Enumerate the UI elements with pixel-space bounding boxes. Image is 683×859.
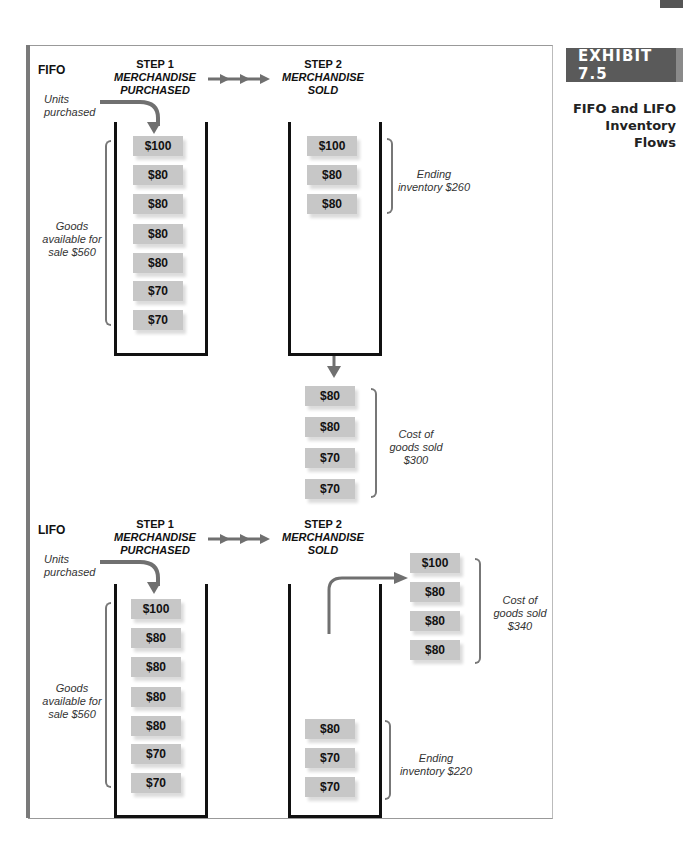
unit-box: $100 [307,136,357,156]
lifo-cogs-brace [475,558,481,664]
unit-box: $70 [133,281,183,301]
unit-box: $70 [131,744,181,764]
fifo-step1-label: STEP 1 [136,58,174,70]
fifo-units-purchased-label: Units purchased [44,93,95,119]
fifo-goods-available-brace [105,140,111,326]
unit-box: $100 [133,136,183,156]
exhibit-badge-edge [676,48,683,82]
fifo-ending-inventory-label: Ending inventory $260 [396,168,472,194]
unit-box: $80 [410,640,460,660]
fifo-flow-arrow-icon [208,74,272,84]
frame-accent-bar [26,45,30,818]
unit-box: $80 [131,716,181,736]
fifo-step2-heading: STEP 2 MERCHANDISE SOLD [268,58,378,97]
lifo-units-purchased-label: Units purchased [44,553,95,579]
lifo-flow-arrow-icon [208,534,272,544]
fifo-step2-label: STEP 2 [304,58,342,70]
unit-box: $80 [131,687,181,707]
unit-box: $80 [305,417,355,437]
unit-box: $80 [133,253,183,273]
fifo-step1-line1: MERCHANDISE [100,71,210,84]
lifo-ending-inventory-brace [385,720,391,800]
unit-box: $80 [307,194,357,214]
page-number-tab [660,0,683,8]
lifo-step1-label: STEP 1 [136,518,174,530]
fifo-method-label: FIFO [38,63,65,77]
fifo-goods-available-label: Goods available for sale $560 [40,220,104,259]
fifo-step2-line2: SOLD [268,84,378,97]
lifo-step1-heading: STEP 1 MERCHANDISE PURCHASED [100,518,210,557]
fifo-step1-heading: STEP 1 MERCHANDISE PURCHASED [100,58,210,97]
lifo-cogs-label: Cost of goods sold $340 [484,594,556,633]
unit-box: $70 [305,777,355,797]
lifo-sold-arrow-icon [326,572,410,636]
exhibit-title-line2: Inventory Flows [560,117,676,151]
unit-box: $80 [410,611,460,631]
unit-box: $70 [305,479,355,499]
fifo-ending-inventory-brace [387,138,393,214]
lifo-step1-line1: MERCHANDISE [100,531,210,544]
unit-box: $80 [410,582,460,602]
lifo-step2-label: STEP 2 [304,518,342,530]
fifo-sold-bin [288,122,382,356]
exhibit-badge: EXHIBIT 7.5 [566,48,683,82]
unit-box: $80 [133,194,183,214]
lifo-step2-line2: SOLD [268,544,378,557]
unit-box: $70 [305,748,355,768]
unit-box: $80 [305,719,355,739]
lifo-ending-inventory-label: Ending inventory $220 [394,752,478,778]
lifo-goods-available-label: Goods available for sale $560 [40,682,104,721]
fifo-sold-arrow-icon [327,356,341,378]
exhibit-title: FIFO and LIFO Inventory Flows [560,100,676,151]
lifo-goods-available-brace [105,602,111,788]
fifo-cogs-brace [371,388,377,498]
unit-box: $100 [410,553,460,573]
unit-box: $70 [131,773,181,793]
exhibit-title-line1: FIFO and LIFO [560,100,676,117]
lifo-step2-line1: MERCHANDISE [268,531,378,544]
lifo-method-label: LIFO [38,523,65,537]
lifo-step2-heading: STEP 2 MERCHANDISE SOLD [268,518,378,557]
unit-box: $80 [305,386,355,406]
unit-box: $80 [131,657,181,677]
unit-box: $80 [133,165,183,185]
unit-box: $80 [307,165,357,185]
fifo-step2-line1: MERCHANDISE [268,71,378,84]
unit-box: $70 [305,448,355,468]
fifo-cogs-label: Cost of goods sold $300 [380,428,452,467]
unit-box: $80 [133,224,183,244]
unit-box: $70 [133,310,183,330]
unit-box: $100 [131,599,181,619]
unit-box: $80 [131,628,181,648]
